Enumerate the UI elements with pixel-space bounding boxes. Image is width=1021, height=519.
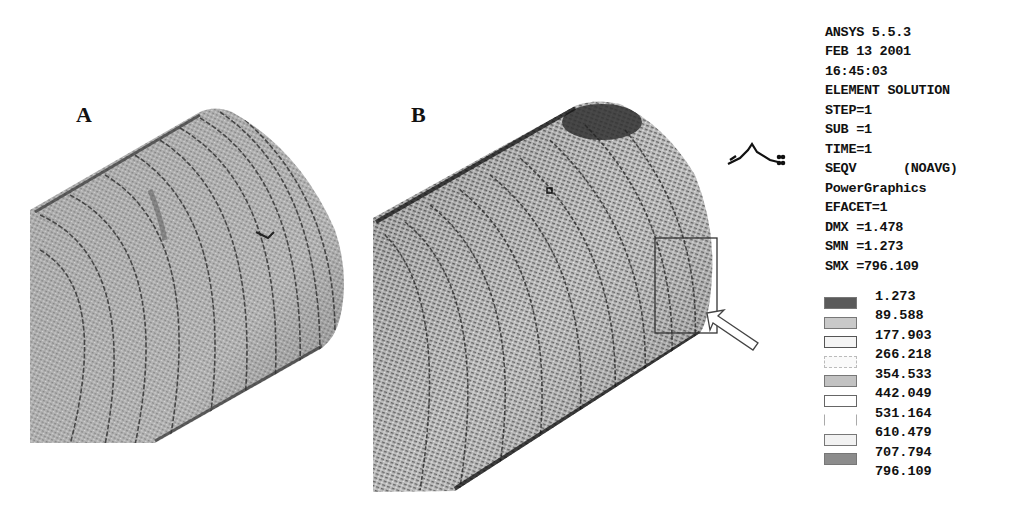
legend-line-time-step: TIME=1: [825, 143, 872, 157]
pointer-arrow: [707, 310, 758, 350]
legend-line-step: STEP=1: [825, 104, 872, 118]
legend-line-smx: SMX =796.109: [825, 260, 919, 274]
panel-label-a: A: [76, 104, 92, 126]
scale-value: 442.049: [875, 387, 932, 401]
scale-value: 796.109: [875, 465, 932, 479]
legend-line-powergraphics: PowerGraphics: [825, 182, 926, 196]
scale-swatch: [824, 356, 857, 368]
scale-swatch: [824, 414, 857, 426]
panel-label-b: B: [411, 104, 426, 126]
panel-a-model: [0, 0, 360, 460]
axis-triad-icon: [728, 144, 784, 164]
contour-scale: 1.273 89.588 177.903 266.218 354.533 442…: [824, 290, 1014, 490]
scale-value: 89.588: [875, 309, 924, 323]
legend-line-efacet: EFACET=1: [825, 201, 887, 215]
scale-swatch: [824, 453, 857, 465]
scale-value: 354.533: [875, 368, 932, 382]
scale-value: 531.164: [875, 407, 932, 421]
scale-value: 266.218: [875, 348, 932, 362]
scale-swatch: [824, 395, 857, 407]
scale-value: 707.794: [875, 446, 932, 460]
legend-line-dmx: DMX =1.478: [825, 221, 903, 235]
legend-line-version: ANSYS 5.5.3: [825, 26, 911, 40]
scale-value: 610.479: [875, 426, 932, 440]
figure: A B ANSYS 5.5.3 FEB 13 2001 16:45:03 ELE…: [0, 0, 1021, 519]
scale-swatch: [824, 336, 857, 348]
legend-line-smn: SMN =1.273: [825, 240, 903, 254]
scale-value: 177.903: [875, 329, 932, 343]
legend-line-sub: SUB =1: [825, 123, 872, 137]
scale-swatch: [824, 317, 857, 329]
panel-b-model: [360, 90, 758, 510]
legend-line-time: 16:45:03: [825, 65, 887, 79]
scale-value: 1.273: [875, 290, 916, 304]
scale-swatch: [824, 434, 857, 446]
scale-swatch: [824, 297, 857, 309]
legend-line-date: FEB 13 2001: [825, 45, 911, 59]
legend-line-solution: ELEMENT SOLUTION: [825, 84, 950, 98]
scale-swatch: [824, 375, 857, 387]
legend-line-seqv: SEQV (NOAVG): [825, 162, 958, 176]
